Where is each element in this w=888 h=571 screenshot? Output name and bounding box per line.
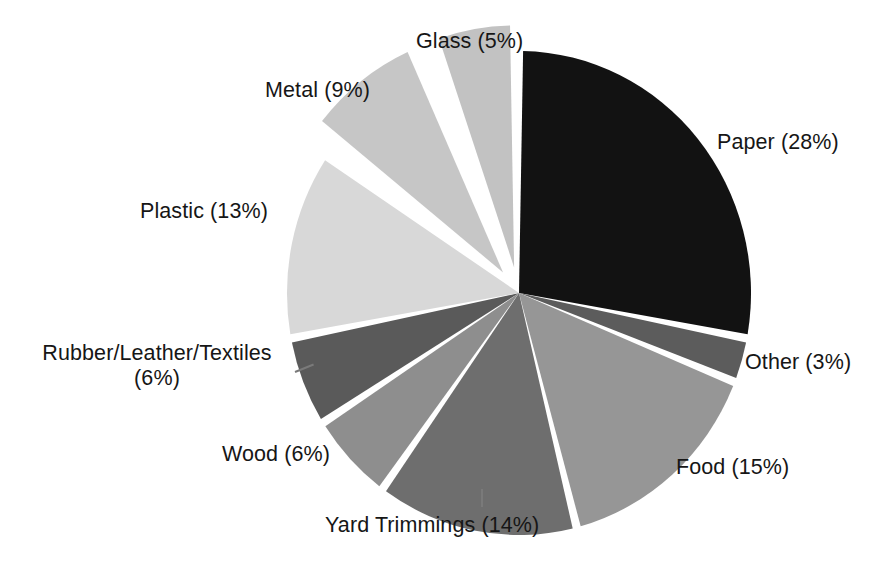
slice-label-glass: Glass (5%) [416,29,523,54]
slice-label-metal: Metal (9%) [265,78,370,103]
leader-line-yard-trimmings [481,489,483,507]
slice-label-other: Other (3%) [745,350,851,375]
slice-label-rubber-line1: Rubber/Leather/Textiles [42,341,271,365]
slice-label-yard-trimmings: Yard Trimmings (14%) [325,513,539,538]
slice-label-wood: Wood (6%) [222,442,330,467]
slice-label-paper: Paper (28%) [717,130,839,155]
slice-label-food: Food (15%) [676,455,789,480]
pie-slice-paper[interactable]: Paper (28%) [519,51,751,334]
pie-chart-canvas: Paper (28%)Other (3%)Food (15%)Yard Trim… [0,0,888,571]
slice-label-rubber-leather-textiles: Rubber/Leather/Textiles (6%) [22,341,292,392]
pie-chart-figure: Paper (28%)Other (3%)Food (15%)Yard Trim… [0,0,888,571]
slice-label-rubber-line2: (6%) [22,366,292,391]
slice-label-plastic: Plastic (13%) [140,199,268,224]
